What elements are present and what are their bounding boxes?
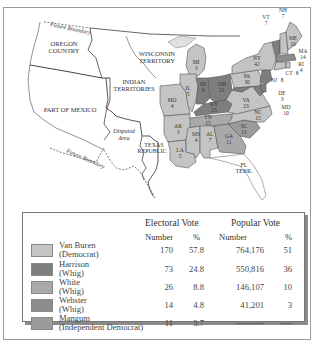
white-swatch	[31, 281, 53, 294]
ev-percent: 24.8	[189, 264, 204, 274]
legend-row-mangum: Mangum(Independent Democrat) 11 3.7 ----…	[23, 315, 304, 333]
pv-number: 41,201	[240, 300, 264, 310]
future-boundary-north-label: Future Boundary	[49, 21, 92, 36]
ev-percent-header: %	[193, 232, 200, 242]
ev-percent: 3.7	[193, 318, 204, 328]
label-TN: TN15	[204, 114, 211, 126]
mangum-swatch	[31, 317, 53, 330]
part-of-mexico-label: PART OF MEXICO	[44, 106, 97, 113]
candidate-label: Webster(Whig)	[59, 296, 87, 313]
label-CT: CT8	[285, 70, 298, 76]
label-VA: VA23	[242, 97, 249, 109]
label-MA: MA14	[299, 48, 308, 60]
ev-number: 73	[164, 264, 173, 274]
wisconsin-territory-label: WISCONSINTERRITORY	[139, 50, 175, 64]
pv-percent: 51	[283, 245, 292, 255]
ev-number: 11	[165, 318, 173, 328]
pv-percent: 3	[288, 300, 292, 310]
ev-number-header: Number	[145, 232, 173, 242]
pv-number-header: Number	[219, 232, 247, 242]
state-CT	[274, 62, 286, 70]
popular-vote-header: Popular Vote	[231, 218, 280, 228]
label-NJ: NJ8	[271, 77, 284, 83]
ev-number: 26	[164, 282, 173, 292]
legend-row-van-buren: Van Buren(Democrat) 170 57.8 764,176 51	[23, 242, 304, 260]
candidate-label: Van Buren(Democrat)	[59, 241, 99, 258]
disputed-area-label: DisputedArea	[112, 128, 136, 141]
florida-territory	[210, 154, 266, 200]
results-legend: Electoral Vote Popular Vote Number % Num…	[22, 212, 305, 322]
ev-number: 170	[160, 245, 173, 255]
state-MA	[276, 54, 296, 62]
pv-percent: 36	[283, 264, 292, 274]
label-DE: DE3	[278, 90, 286, 102]
label-VT: VT7	[262, 14, 270, 26]
ev-percent: 57.8	[189, 245, 204, 255]
pv-number: 550,816	[236, 264, 264, 274]
electoral-vote-header: Electoral Vote	[145, 218, 199, 228]
pv-percent-header: %	[285, 232, 292, 242]
label-PA: PA30	[244, 73, 251, 85]
pv-number: 764,176	[236, 245, 264, 255]
harrison-swatch	[31, 263, 53, 276]
webster-swatch	[31, 299, 53, 312]
indian-territories-label: INDIANTERRITORIES	[113, 78, 155, 92]
state-RI	[286, 62, 290, 68]
texas-republic-label: TEXASREPUBLIC	[137, 142, 166, 154]
label-SC: SC11	[241, 123, 248, 135]
future-boundary-south-line	[50, 148, 155, 198]
van-buren-swatch	[31, 244, 53, 257]
ev-percent: 8.8	[193, 282, 204, 292]
ev-percent: 4.8	[193, 300, 204, 310]
pv-number: ----------	[235, 318, 264, 328]
pv-number: 146,107	[236, 282, 264, 292]
label-RI: RI4	[298, 61, 304, 73]
future-boundary-south-label: Future Boundary	[65, 147, 106, 170]
pv-percent: ----	[281, 318, 292, 328]
label-MD: MD10	[282, 104, 291, 116]
pv-percent: 10	[283, 282, 292, 292]
ev-number: 14	[164, 300, 173, 310]
oregon-country-label: OREGONCOUNTRY	[48, 40, 79, 54]
candidate-label: White(Whig)	[59, 278, 84, 295]
label-NH: NH7	[279, 7, 287, 19]
candidate-label: Harrison(Whig)	[59, 260, 89, 277]
candidate-label: Mangum(Independent Democrat)	[59, 314, 143, 331]
